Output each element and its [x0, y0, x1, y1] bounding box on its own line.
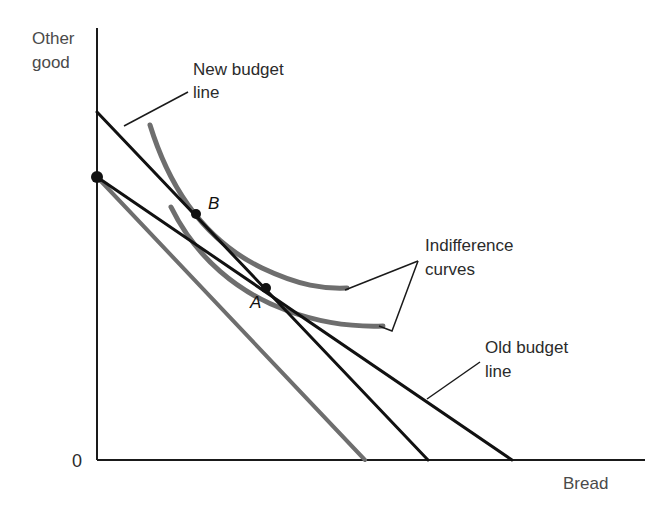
- x-axis-label: Bread: [563, 474, 608, 493]
- axes-group: [97, 28, 645, 460]
- old-budget-line-label-line2: line: [485, 362, 511, 381]
- point-a-dot: [261, 283, 271, 293]
- figure-canvas: Other good 0 Bread New budget line Indif…: [0, 0, 650, 510]
- indifference-curves-leader-upper: [345, 261, 418, 290]
- indifference-curves-label-line2: curves: [425, 260, 475, 279]
- point-b-dot: [191, 209, 201, 219]
- new-budget-line-label-line2: line: [193, 83, 219, 102]
- indifference-curves-leader-lower: [379, 261, 418, 331]
- old-budget-line-leader: [427, 362, 480, 399]
- y-axis-label-line1: Other: [32, 29, 75, 48]
- y-axis-label-line2: good: [32, 53, 70, 72]
- old-budget-line-label-line1: Old budget: [485, 338, 568, 357]
- indifference-curves-group: [150, 125, 383, 326]
- point-b-label: B: [208, 194, 219, 213]
- new-budget-line-label-line1: New budget: [193, 60, 284, 79]
- new-budget-line-leader: [124, 92, 188, 126]
- indifference-curve-figure: Other good 0 Bread New budget line Indif…: [0, 0, 650, 510]
- old-budget-line: [97, 177, 512, 460]
- old-budget-y-intercept-dot: [91, 171, 103, 183]
- compensated-budget-line: [97, 177, 365, 460]
- origin-label: 0: [72, 451, 82, 471]
- point-a-label: A: [249, 293, 261, 312]
- indifference-curves-label-line1: Indifference: [425, 236, 514, 255]
